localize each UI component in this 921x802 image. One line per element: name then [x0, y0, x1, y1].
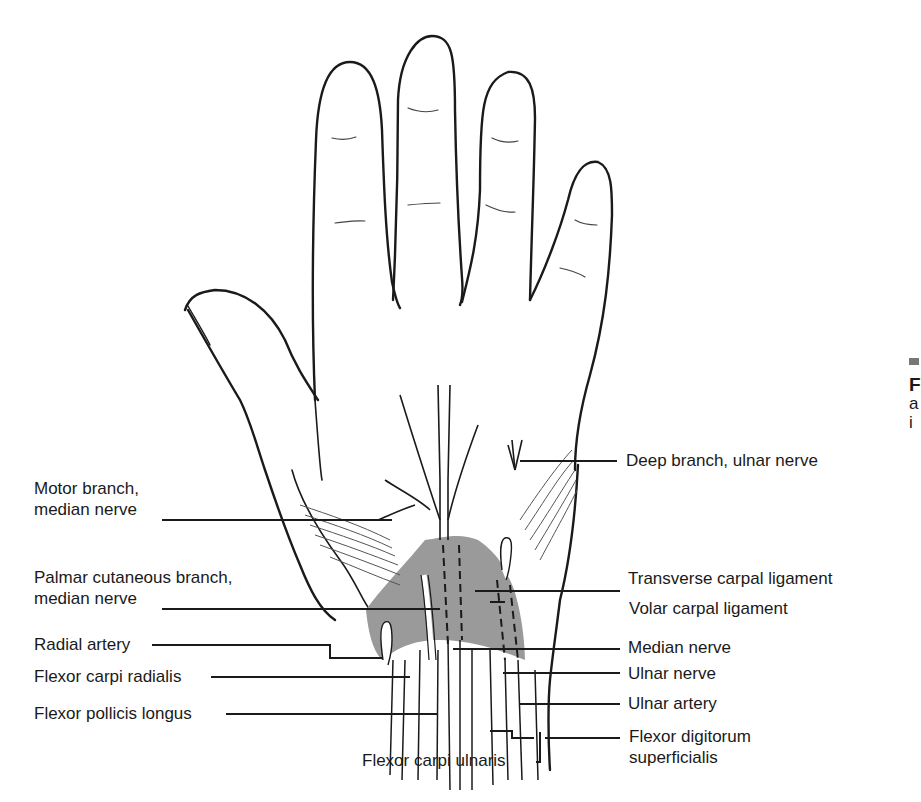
label-palmar-cutaneous-branch: Palmar cutaneous branch, median nerve [34, 567, 232, 609]
middle-finger-outline [393, 36, 462, 305]
label-motor-branch: Motor branch, median nerve [34, 478, 139, 520]
label-line: Motor branch, [34, 478, 139, 499]
label-flexor-digitorum-superficialis: Flexor digitorum superficialis [629, 726, 751, 768]
leader-flexor-carpi-ulnaris [490, 731, 534, 738]
caption-line: i [909, 413, 921, 432]
label-median-nerve: Median nerve [628, 637, 731, 658]
index-finger-outline [313, 62, 400, 400]
label-radial-artery: Radial artery [34, 634, 130, 655]
label-line: Palmar cutaneous branch, [34, 567, 232, 588]
label-line: Flexor pollicis longus [34, 703, 192, 724]
label-line: Transverse carpal ligament [628, 568, 832, 589]
label-flexor-carpi-ulnaris: Flexor carpi ulnaris [362, 750, 506, 771]
label-line: Volar carpal ligament [629, 598, 788, 619]
thumbnail [188, 306, 210, 345]
label-line: Flexor carpi radialis [34, 666, 181, 687]
label-volar-carpal-ligament: Volar carpal ligament [629, 598, 788, 619]
label-line: median nerve [34, 588, 232, 609]
thenar-crease [315, 400, 322, 480]
label-ulnar-nerve: Ulnar nerve [628, 663, 716, 684]
label-line: superficialis [629, 747, 751, 768]
label-line: Flexor carpi ulnaris [362, 750, 506, 771]
leader-radial-artery [152, 645, 382, 658]
label-line: Flexor digitorum [629, 726, 751, 747]
label-line: median nerve [34, 499, 139, 520]
label-line: Radial artery [34, 634, 130, 655]
label-flexor-carpi-radialis: Flexor carpi radialis [34, 666, 181, 687]
label-deep-branch-ulnar-nerve: Deep branch, ulnar nerve [626, 450, 818, 471]
label-line: Ulnar artery [628, 693, 717, 714]
label-flexor-pollicis-longus: Flexor pollicis longus [34, 703, 192, 724]
thumb-outline [185, 290, 318, 400]
little-finger-outline [530, 162, 612, 470]
label-line: Median nerve [628, 637, 731, 658]
label-ulnar-artery: Ulnar artery [628, 693, 717, 714]
caption-line: F [909, 375, 921, 394]
ring-finger-outline [462, 72, 535, 302]
label-line: Ulnar nerve [628, 663, 716, 684]
label-transverse-carpal-ligament: Transverse carpal ligament [628, 568, 832, 589]
caption-line: a [909, 394, 921, 413]
label-line: Deep branch, ulnar nerve [626, 450, 818, 471]
caption-marker-icon [909, 358, 919, 365]
palm-ulnar-edge [549, 465, 579, 770]
figure-caption-fragment: F a i [909, 358, 921, 432]
